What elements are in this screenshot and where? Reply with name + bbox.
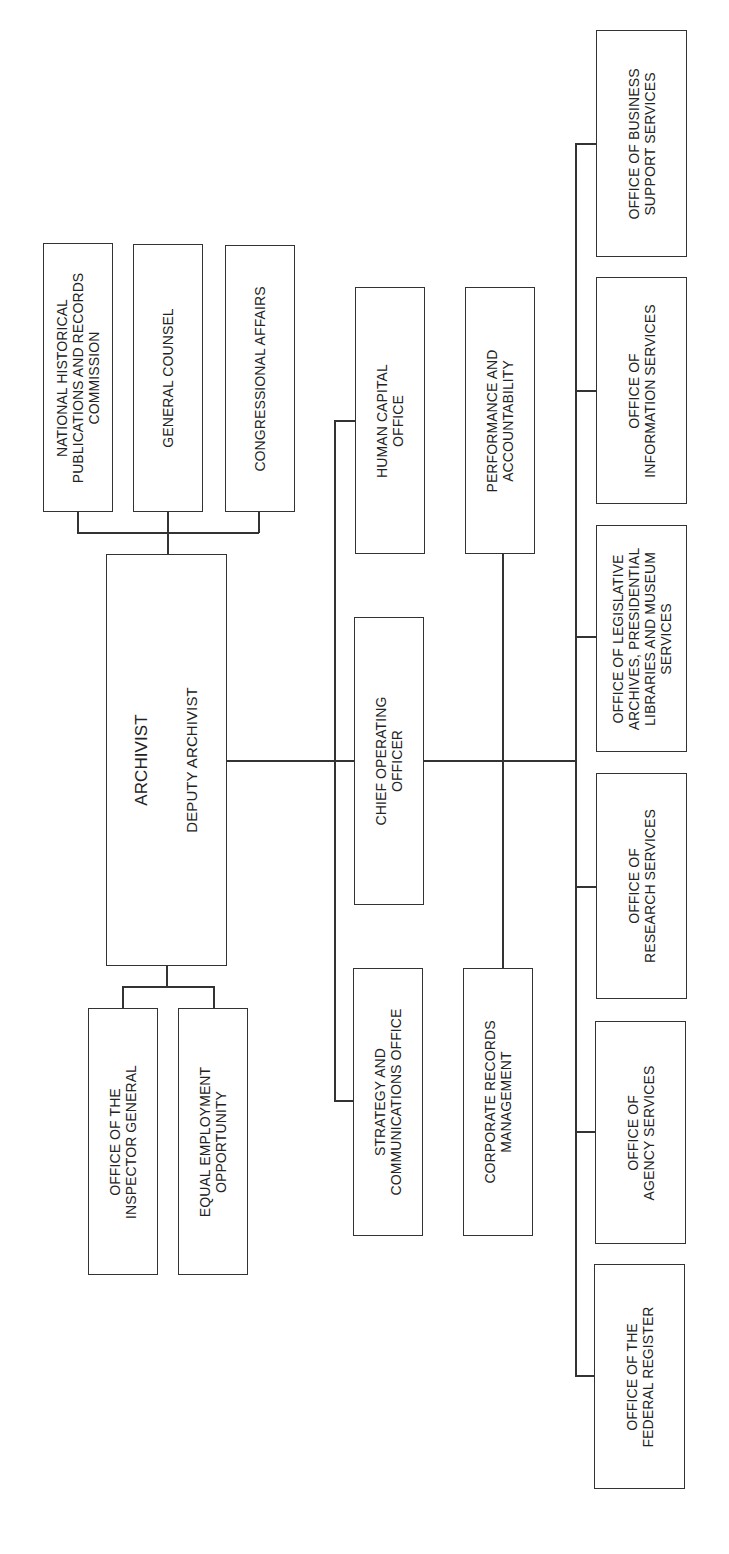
label-line: OFFICE [390,364,406,478]
label-line: OPPORTUNITY [213,1066,229,1216]
box-label: OFFICE OF LEGISLATIVE ARCHIVES, PRESIDEN… [610,547,674,730]
connector-federal-register [575,1375,596,1377]
connector-program-spine [575,143,577,1376]
box-inspector-general: OFFICE OF THE INSPECTOR GENERAL [88,1008,158,1275]
label-line: OFFICE OF [626,809,642,963]
box-label: ARCHIVIST DEPUTY ARCHIVIST [132,687,202,833]
label-line: PUBLICATIONS AND RECORDS [70,272,86,483]
label-line: INFORMATION SERVICES [642,304,658,477]
label-line: SUPPORT SERVICES [642,68,658,219]
label-line: PERFORMANCE AND [484,349,500,492]
box-business-support: OFFICE OF BUSINESS SUPPORT SERVICES [596,30,687,257]
connector-archivist-down [166,965,168,987]
box-label: EQUAL EMPLOYMENT OPPORTUNITY [197,1066,229,1216]
box-label: PERFORMANCE AND ACCOUNTABILITY [484,349,516,492]
label-line: OFFICE OF THE [107,1065,123,1219]
label-line: OFFICE OF THE [624,1306,640,1447]
connector-top-bar [77,532,259,534]
label-line: CHIEF OPERATING [373,697,389,826]
connector-information [575,390,596,392]
label-line: NATIONAL HISTORICAL [54,272,70,483]
box-label: HUMAN CAPITAL OFFICE [374,364,406,478]
connector-human-capital [334,420,355,422]
label-line: OFFICE OF LEGISLATIVE [610,547,626,730]
label-line: HUMAN CAPITAL [374,364,390,478]
label-line: ARCHIVES, PRESIDENTIAL [626,547,642,730]
box-information-services: OFFICE OF INFORMATION SERVICES [596,277,687,504]
label-line: ACCOUNTABILITY [500,349,516,492]
box-legislative-archives: OFFICE OF LEGISLATIVE ARCHIVES, PRESIDEN… [596,525,687,752]
box-label: OFFICE OF AGENCY SERVICES [625,1065,657,1200]
label-line: MANAGEMENT [498,1020,514,1183]
label-line: CORPORATE RECORDS [482,1020,498,1183]
box-performance: PERFORMANCE AND ACCOUNTABILITY [465,287,535,554]
connector-performance-records [502,553,504,968]
connector-lower-bar [122,986,214,988]
label-line: OFFICER [389,697,405,826]
box-label: CHIEF OPERATING OFFICER [373,697,405,826]
label-line: LIBRARIES AND MUSEUM [642,547,658,730]
label-line: FEDERAL REGISTER [640,1306,656,1447]
label-line: COMMUNICATIONS OFFICE [388,1009,404,1196]
box-label: GENERAL COUNSEL [160,308,176,447]
box-general-counsel: GENERAL COUNSEL [133,244,203,512]
label-line: OFFICE OF [625,1065,641,1200]
connector-business-support [575,143,596,145]
connector-strategy [334,1100,354,1102]
box-label: OFFICE OF BUSINESS SUPPORT SERVICES [626,68,658,219]
box-agency-services: OFFICE OF AGENCY SERVICES [595,1021,686,1244]
connector-legislative [575,636,596,638]
label-line: EQUAL EMPLOYMENT [197,1066,213,1216]
label-line: STRATEGY AND [372,1009,388,1196]
connector-eeo [213,986,215,1008]
box-chief-operating-officer: CHIEF OPERATING OFFICER [354,617,424,905]
connector-congressional [258,511,260,533]
box-label: OFFICE OF THE INSPECTOR GENERAL [107,1065,139,1219]
box-nhprc: NATIONAL HISTORICAL PUBLICATIONS AND REC… [43,243,113,512]
box-human-capital: HUMAN CAPITAL OFFICE [355,287,425,554]
box-label: CONGRESSIONAL AFFAIRS [252,286,268,471]
archivist-title: ARCHIVIST [132,687,152,833]
label-line: COMMISSION [86,272,102,483]
box-label: OFFICE OF RESEARCH SERVICES [626,809,658,963]
label-line: AGENCY SERVICES [641,1065,657,1200]
box-label: NATIONAL HISTORICAL PUBLICATIONS AND REC… [54,272,102,483]
deputy-archivist-title: DEPUTY ARCHIVIST [182,687,202,833]
box-equal-employment: EQUAL EMPLOYMENT OPPORTUNITY [178,1008,248,1275]
box-corporate-records: CORPORATE RECORDS MANAGEMENT [463,968,533,1236]
label-line: INSPECTOR GENERAL [123,1065,139,1219]
label-line: GENERAL COUNSEL [160,308,176,447]
connector-agency [575,1131,596,1133]
label-line: SERVICES [658,547,674,730]
box-label: CORPORATE RECORDS MANAGEMENT [482,1020,514,1183]
label-line: CONGRESSIONAL AFFAIRS [252,286,268,471]
box-research-services: OFFICE OF RESEARCH SERVICES [596,773,687,999]
label-line: OFFICE OF BUSINESS [626,68,642,219]
box-label: OFFICE OF INFORMATION SERVICES [626,304,658,477]
box-congressional-affairs: CONGRESSIONAL AFFAIRS [225,245,295,512]
box-label: OFFICE OF THE FEDERAL REGISTER [624,1306,656,1447]
connector-research [575,886,596,888]
box-label: STRATEGY AND COMMUNICATIONS OFFICE [372,1009,404,1196]
box-federal-register: OFFICE OF THE FEDERAL REGISTER [594,1264,685,1489]
box-archivist: ARCHIVIST DEPUTY ARCHIVIST [106,554,227,966]
connector-staff-bracket [334,420,336,1101]
label-line: RESEARCH SERVICES [642,809,658,963]
label-line: OFFICE OF [626,304,642,477]
box-strategy-communications: STRATEGY AND COMMUNICATIONS OFFICE [353,968,423,1236]
connector-oig [122,986,124,1008]
connector-nhprc [77,511,79,533]
